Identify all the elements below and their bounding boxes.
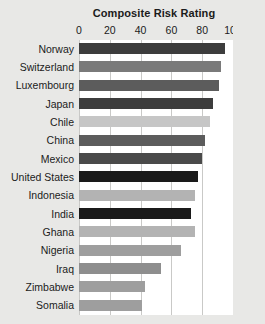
- bar-row: Ghana: [0, 223, 265, 240]
- bar-somalia: [79, 300, 142, 311]
- category-label-india: India: [51, 208, 74, 220]
- composite-risk-rating-chart: Composite Risk Rating 020406080100 Norwa…: [0, 0, 265, 324]
- bar-norway: [79, 43, 225, 54]
- bar-row: Somalia: [0, 297, 265, 314]
- bar-mexico: [79, 153, 202, 164]
- category-label-somalia: Somalia: [36, 299, 74, 311]
- bar-row: India: [0, 205, 265, 222]
- x-tick-label-80: 80: [196, 24, 208, 36]
- category-label-switzerland: Switzerland: [20, 61, 74, 73]
- x-tick-label-0: 0: [76, 24, 82, 36]
- x-axis-tick-labels: 020406080100: [0, 24, 265, 39]
- category-label-indonesia: Indonesia: [28, 189, 74, 201]
- bar-row: China: [0, 132, 265, 149]
- category-label-china: China: [47, 134, 74, 146]
- bar-iraq: [79, 263, 161, 274]
- bar-zimbabwe: [79, 281, 145, 292]
- bar-india: [79, 208, 191, 219]
- bar-japan: [79, 98, 213, 109]
- bar-switzerland: [79, 61, 221, 72]
- bar-row: Zimbabwe: [0, 278, 265, 295]
- category-label-chile: Chile: [50, 116, 74, 128]
- bar-nigeria: [79, 245, 181, 256]
- x-tick-label-40: 40: [135, 24, 147, 36]
- bar-united-states: [79, 171, 198, 182]
- bar-indonesia: [79, 190, 195, 201]
- category-label-luxembourg: Luxembourg: [16, 79, 74, 91]
- chart-title: Composite Risk Rating: [72, 7, 236, 20]
- bar-luxembourg: [79, 80, 219, 91]
- category-label-zimbabwe: Zimbabwe: [26, 281, 74, 293]
- x-tick-label-20: 20: [104, 24, 116, 36]
- bar-row: Japan: [0, 95, 265, 112]
- bar-row: Indonesia: [0, 187, 265, 204]
- bar-row: United States: [0, 168, 265, 185]
- bar-row: Norway: [0, 40, 265, 57]
- bar-chile: [79, 116, 210, 127]
- bar-row: Nigeria: [0, 242, 265, 259]
- bar-ghana: [79, 226, 195, 237]
- category-label-iraq: Iraq: [56, 263, 74, 275]
- bar-row: Iraq: [0, 260, 265, 277]
- bar-row: Chile: [0, 113, 265, 130]
- bar-rows: NorwaySwitzerlandLuxembourgJapanChileChi…: [0, 40, 265, 315]
- x-tick-label-60: 60: [166, 24, 178, 36]
- bar-row: Mexico: [0, 150, 265, 167]
- page-margin-band: [233, 0, 265, 324]
- category-label-norway: Norway: [38, 43, 74, 55]
- bar-china: [79, 135, 205, 146]
- category-label-united-states: United States: [11, 171, 74, 183]
- bar-row: Luxembourg: [0, 77, 265, 94]
- category-label-ghana: Ghana: [42, 226, 74, 238]
- category-label-mexico: Mexico: [41, 153, 74, 165]
- category-label-japan: Japan: [45, 98, 74, 110]
- category-label-nigeria: Nigeria: [41, 244, 74, 256]
- bar-row: Switzerland: [0, 58, 265, 75]
